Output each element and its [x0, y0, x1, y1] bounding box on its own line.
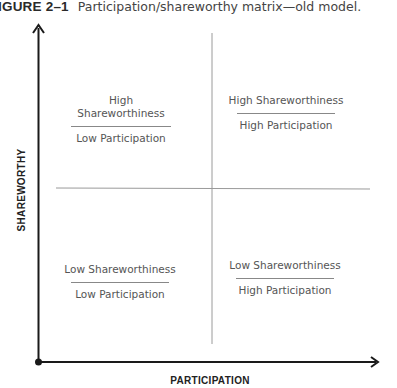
quadrant-top-right-line1: High Shareworthiness: [228, 94, 344, 107]
x-axis-label: PARTICIPATION: [170, 375, 249, 386]
quadrant-rule: [71, 282, 169, 283]
origin-dot-icon: [35, 359, 42, 366]
quadrant-bottom-right: Low Shareworthiness High Participation: [228, 259, 342, 297]
quadrant-top-right-line2: High Participation: [228, 119, 344, 132]
quadrant-top-left-line1: High Shareworthiness: [66, 94, 176, 120]
quadrant-bottom-right-line1: Low Shareworthiness: [228, 259, 342, 272]
horizontal-divider: [56, 188, 370, 189]
y-axis-label: SHAREWORTHY: [16, 149, 27, 232]
quadrant-rule: [237, 113, 335, 114]
quadrant-top-left: High Shareworthiness Low Participation: [66, 94, 176, 145]
quadrant-bottom-left-line1: Low Shareworthiness: [64, 263, 176, 276]
quadrant-bottom-right-line2: High Participation: [228, 284, 342, 297]
quadrant-bottom-left-line2: Low Participation: [64, 288, 176, 301]
quadrant-top-left-line2: Low Participation: [66, 132, 176, 145]
matrix-diagram: [0, 0, 397, 388]
quadrant-rule: [236, 278, 334, 279]
quadrant-rule: [71, 126, 171, 127]
quadrant-bottom-left: Low Shareworthiness Low Participation: [64, 263, 176, 301]
quadrant-top-right: High Shareworthiness High Participation: [228, 94, 344, 132]
